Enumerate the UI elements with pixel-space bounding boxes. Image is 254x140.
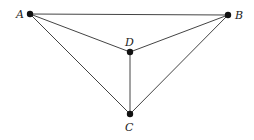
label-a: A xyxy=(15,8,24,21)
edge-a-d xyxy=(30,14,130,52)
label-b: B xyxy=(234,9,243,22)
edge-b-d xyxy=(130,15,228,52)
node-b xyxy=(225,12,231,18)
edge-b-c xyxy=(130,15,228,114)
edge-a-c xyxy=(30,14,130,114)
node-d xyxy=(127,49,133,55)
graph-diagram: A B D C xyxy=(0,0,254,140)
label-c: C xyxy=(125,121,134,134)
edge-a-b xyxy=(30,14,228,15)
label-d: D xyxy=(124,36,134,49)
node-c xyxy=(127,111,133,117)
node-a xyxy=(27,11,33,17)
